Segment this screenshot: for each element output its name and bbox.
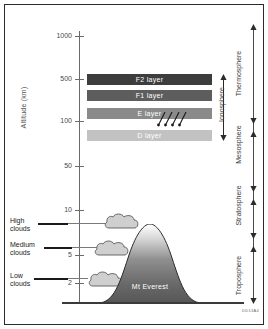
figure-code: DD13A4 <box>242 308 259 313</box>
ionosphere-layer-d: D layer <box>87 130 212 141</box>
y-tick-label-10: 10 <box>32 206 72 213</box>
y-tick-label-100: 100 <box>32 117 72 124</box>
cloud-callout-high: High clouds <box>10 217 58 233</box>
radio-wave-arrows-icon <box>156 110 190 128</box>
atmosphere-label-thermosphere: Thermosphere <box>235 34 242 114</box>
cloud-leader-high-thick <box>38 223 68 225</box>
cloud-label-medium-line2: clouds <box>10 249 58 257</box>
ground-line <box>62 302 244 304</box>
cloud-callout-medium: Medium clouds <box>10 241 58 257</box>
y-tick-label-500: 500 <box>32 75 72 82</box>
cloud-leader-low-thick <box>34 278 68 280</box>
y-tick-1000 <box>75 36 84 37</box>
y-tick-label-1000: 1000 <box>32 32 72 39</box>
ionosphere-layer-f2: F2 layer <box>87 74 212 85</box>
cloud-leader-low-thin <box>68 278 88 279</box>
y-axis-title: Altitude (km) <box>20 63 27 153</box>
y-tick-100 <box>75 121 84 122</box>
layer-label-f2: F2 layer <box>136 76 164 83</box>
y-tick-2 <box>75 283 84 284</box>
cloud-leader-medium-thick <box>44 247 72 249</box>
y-tick-50 <box>75 166 84 167</box>
mount-everest-label: Mt Everest <box>108 283 192 290</box>
y-tick-10 <box>75 210 84 211</box>
layer-label-f1: F1 layer <box>136 92 164 99</box>
cloud-label-low-line2: clouds <box>10 280 58 288</box>
ionosphere-layer-f1: F1 layer <box>87 90 212 101</box>
mount-everest-shape <box>98 224 202 303</box>
y-axis-line <box>79 31 80 303</box>
atmosphere-span-axis-icon <box>249 24 258 304</box>
atmosphere-label-stratosphere: Stratosphere <box>235 166 242 246</box>
ionosphere-layer-e: E layer <box>87 108 212 119</box>
cloud-callout-low: Low clouds <box>10 272 58 288</box>
y-tick-5 <box>75 255 84 256</box>
y-tick-500 <box>75 79 84 80</box>
atmosphere-diagram: Altitude (km) 1000 500 100 50 10 5 2 F2 … <box>0 0 268 329</box>
ionosphere-label: Ionosphere <box>218 70 225 140</box>
cloud-label-high-line2: clouds <box>10 225 58 233</box>
layer-label-d: D layer <box>137 132 161 139</box>
y-tick-label-50: 50 <box>32 162 72 169</box>
